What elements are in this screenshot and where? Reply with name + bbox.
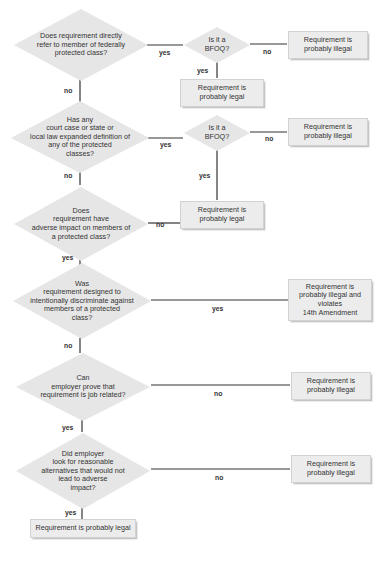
edge-label-no: no bbox=[263, 48, 271, 55]
decision-text: Did employer look for reasonable alterna… bbox=[15, 432, 151, 510]
outcome-legal-2: Requirement is probably legal bbox=[180, 201, 264, 229]
decision-direct-reference: Does requirement directly refer to membe… bbox=[13, 8, 149, 82]
decision-reasonable-alternatives: Did employer look for reasonable alterna… bbox=[15, 432, 151, 510]
edge-label-yes: yes bbox=[159, 49, 170, 56]
edge-label-no: no bbox=[214, 390, 222, 397]
edge-label-no: no bbox=[265, 135, 273, 142]
decision-text: Has any court case or state or local law… bbox=[10, 100, 150, 174]
decision-job-related: Can employer prove that requirement is j… bbox=[15, 352, 151, 422]
outcome-illegal-3: Requirement is probably illegal bbox=[291, 372, 371, 400]
edge-label-yes: yes bbox=[62, 424, 73, 431]
decision-text: Was requirement designed to intentionall… bbox=[12, 262, 152, 340]
outcome-legal-final: Requirement is probably legal bbox=[30, 519, 136, 538]
decision-bfoq-1: Is it a BFOQ? bbox=[183, 26, 251, 64]
flowchart: Does requirement directly refer to membe… bbox=[0, 0, 388, 564]
edge-label-no: no bbox=[215, 474, 223, 481]
outcome-illegal-14th-amendment: Requirement is probably illegal and viol… bbox=[288, 279, 372, 321]
decision-text: Does requirement directly refer to membe… bbox=[13, 8, 149, 82]
decision-text: Does requirement have adverse impact on … bbox=[13, 186, 149, 262]
edge-label-no: no bbox=[156, 221, 164, 228]
decision-expanded-definition: Has any court case or state or local law… bbox=[10, 100, 150, 174]
outcome-legal-1: Requirement is probably legal bbox=[180, 79, 264, 107]
edge-label-yes: yes bbox=[65, 509, 76, 516]
edge-label-yes: yes bbox=[62, 254, 73, 261]
edge-label-no: no bbox=[64, 87, 72, 94]
edge-label-no: no bbox=[64, 172, 72, 179]
decision-intentional-discrimination: Was requirement designed to intentionall… bbox=[12, 262, 152, 340]
decision-bfoq-2: Is it a BFOQ? bbox=[183, 114, 251, 152]
edge-label-yes: yes bbox=[160, 141, 171, 148]
decision-adverse-impact: Does requirement have adverse impact on … bbox=[13, 186, 149, 262]
edge-label-yes: yes bbox=[212, 305, 223, 312]
outcome-illegal-2: Requirement is probably illegal bbox=[288, 118, 368, 146]
edge-label-no: no bbox=[64, 342, 72, 349]
decision-text: Is it a BFOQ? bbox=[183, 114, 251, 152]
decision-text: Is it a BFOQ? bbox=[183, 26, 251, 64]
edge-label-yes: yes bbox=[199, 172, 210, 179]
outcome-illegal-4: Requirement is probably illegal bbox=[291, 455, 371, 483]
edge-label-yes: yes bbox=[197, 67, 208, 74]
decision-text: Can employer prove that requirement is j… bbox=[15, 352, 151, 422]
outcome-illegal-1: Requirement is probably illegal bbox=[288, 31, 368, 59]
